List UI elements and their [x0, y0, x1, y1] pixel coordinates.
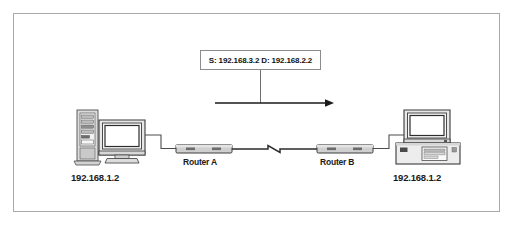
packet-direction-arrow [215, 99, 334, 107]
link-wan-zigzag [232, 146, 317, 153]
diagram-canvas [0, 0, 515, 228]
router-b-icon [317, 145, 373, 154]
router-b-label: Router B [320, 157, 354, 167]
router-a-label: Router A [183, 157, 217, 167]
host-right-desktop-case-icon [396, 143, 460, 164]
host-right-monitor-icon [404, 110, 450, 143]
host-right-label: 192.168.1.2 [393, 172, 441, 183]
packet-header-box: S: 192.168.3.2 D: 192.168.2.2 [200, 50, 321, 70]
packet-header-text: S: 192.168.3.2 D: 192.168.2.2 [209, 56, 312, 65]
router-a-icon [176, 145, 232, 154]
network-diagram-figure: S: 192.168.3.2 D: 192.168.2.2 192.168.1.… [0, 0, 515, 228]
host-left-tower-icon [74, 110, 101, 165]
host-left-monitor-icon [99, 120, 145, 163]
host-left-label: 192.168.1.2 [71, 172, 119, 183]
link-host-left-to-router-a [145, 135, 176, 149]
